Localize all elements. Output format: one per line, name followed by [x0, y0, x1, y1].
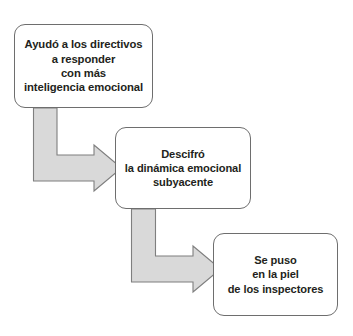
process-box-1-label: Ayudó a los directivos a responder con m… — [19, 37, 148, 94]
diagram-canvas: Ayudó a los directivos a responder con m… — [0, 0, 353, 336]
process-box-2: Descifró la dinámica emocional subyacent… — [115, 127, 251, 209]
process-box-3-label: Se puso en la piel de los inspectores — [223, 253, 329, 295]
process-box-1: Ayudó a los directivos a responder con m… — [14, 24, 153, 108]
process-box-3: Se puso en la piel de los inspectores — [213, 233, 338, 316]
process-box-2-label: Descifró la dinámica emocional subyacent… — [120, 147, 246, 189]
connector-arrow-1 — [34, 108, 122, 191]
connector-arrow-2 — [132, 209, 221, 292]
